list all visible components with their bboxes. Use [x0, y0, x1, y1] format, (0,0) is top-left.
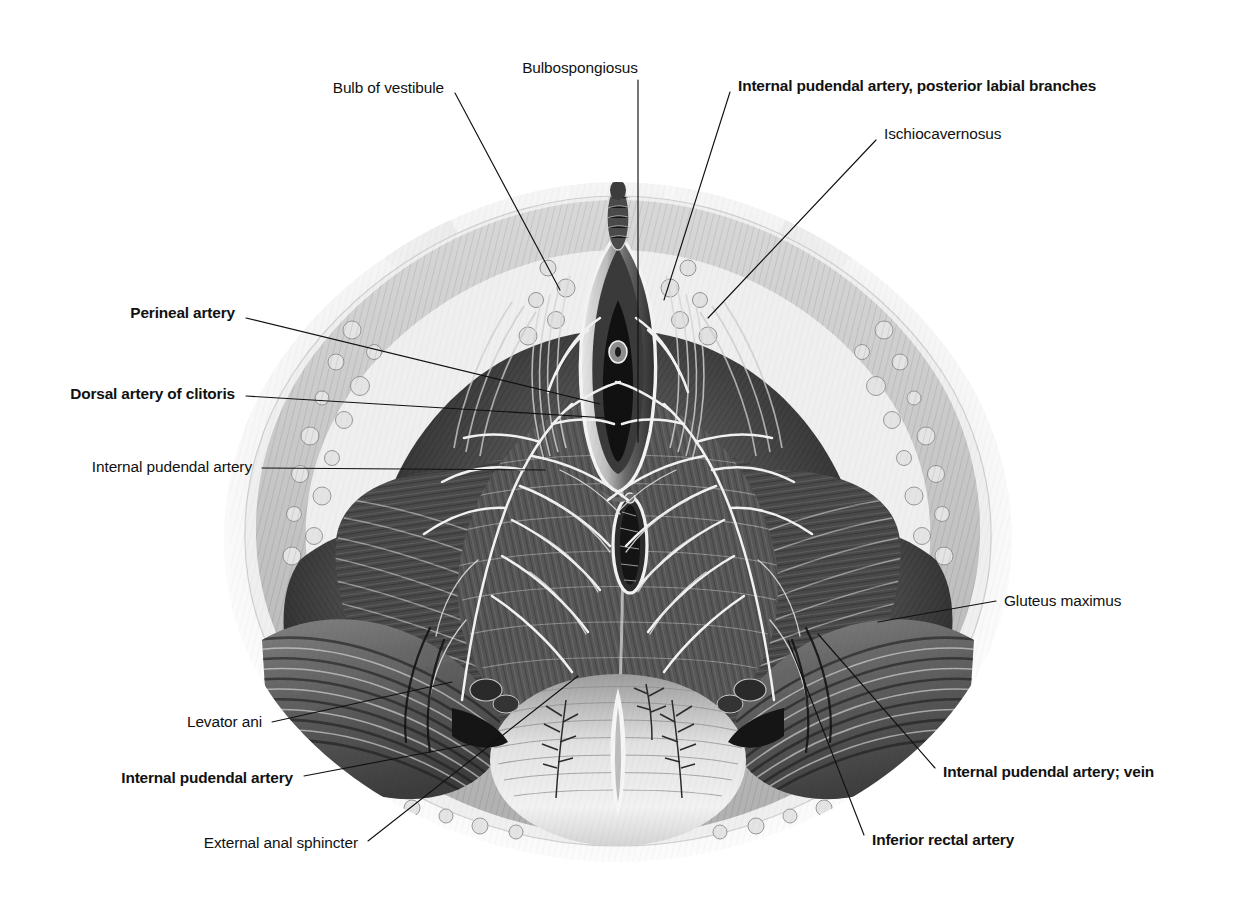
label-inferior-rectal-artery: Inferior rectal artery: [872, 832, 1014, 849]
label-internal-pudendal-artery-left: Internal pudendal artery: [92, 459, 252, 476]
label-levator-ani: Levator ani: [187, 714, 262, 731]
label-perineal-artery: Perineal artery: [130, 305, 235, 322]
label-external-anal-sphincter: External anal sphincter: [204, 835, 358, 852]
label-internal-pudendal-artery-vein: Internal pudendal artery; vein: [943, 764, 1154, 781]
figure-canvas: Bulb of vestibule Bulbospongiosus Intern…: [0, 0, 1236, 897]
label-bulbospongiosus: Bulbospongiosus: [522, 60, 638, 77]
label-internal-pudendal-artery-bottom: Internal pudendal artery: [121, 770, 293, 787]
label-gluteus-maximus: Gluteus maximus: [1004, 593, 1121, 610]
label-ischiocavernosus: Ischiocavernosus: [884, 126, 1001, 143]
label-dorsal-artery-of-clitoris: Dorsal artery of clitoris: [70, 386, 235, 403]
label-internal-pudendal-artery-posterior-labial-branches: Internal pudendal artery, posterior labi…: [738, 78, 1096, 95]
label-bulb-of-vestibule: Bulb of vestibule: [333, 80, 444, 97]
